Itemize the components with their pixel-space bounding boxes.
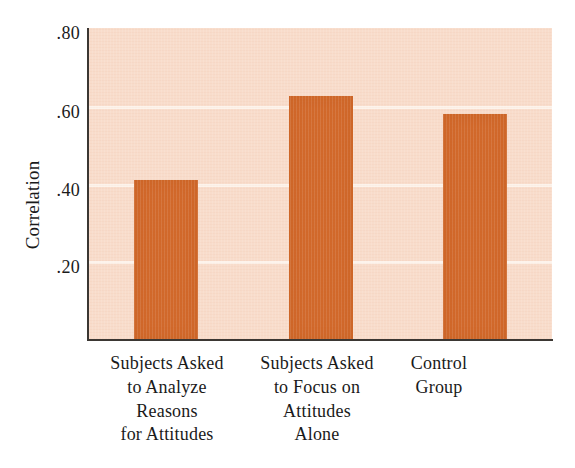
category-label-line: Control <box>380 352 498 376</box>
y-axis-tick-label-040: .40 <box>20 180 80 201</box>
bar-2 <box>443 114 507 339</box>
bar-0 <box>134 180 198 339</box>
y-axis-tick-label-020: .20 <box>20 257 80 278</box>
x-axis-line <box>87 339 553 341</box>
plot-area <box>89 28 552 339</box>
category-label-line: Group <box>380 376 498 400</box>
category-label-line: Attitudes <box>208 400 426 424</box>
x-axis-category-label-2: Control Group <box>380 352 498 400</box>
category-label-line: Alone <box>208 423 426 447</box>
y-axis-tick-label-060: .60 <box>20 102 80 123</box>
bar-chart: Correlation .80 .60 .40 .20 Subjects Ask… <box>0 0 575 468</box>
y-axis-title: Correlation <box>22 161 44 250</box>
bar-1 <box>289 96 353 339</box>
y-axis-tick-label-080: .80 <box>20 23 80 44</box>
